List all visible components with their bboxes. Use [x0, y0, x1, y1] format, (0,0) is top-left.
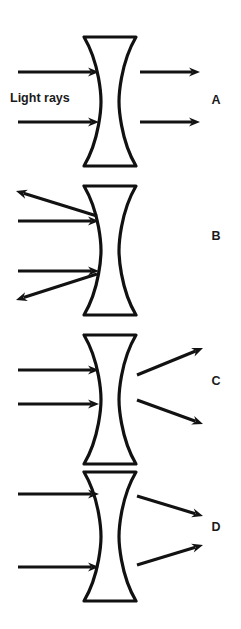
panel-label-a: A — [211, 93, 220, 107]
panel-label-b: B — [211, 229, 220, 243]
panel-label-d: D — [211, 520, 220, 534]
panel-label-c: C — [211, 374, 220, 388]
light-rays-caption: Light rays — [10, 91, 70, 105]
figure-canvas: ABCD Light rays — [0, 0, 241, 629]
ray-diagram-figure: ABCD Light rays — [0, 0, 241, 629]
